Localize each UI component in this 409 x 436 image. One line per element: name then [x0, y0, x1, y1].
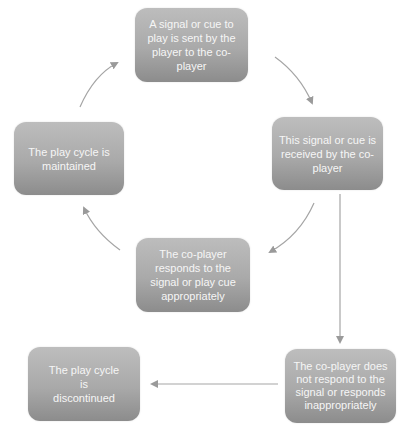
- node-label: The co-player responds to the signal or …: [142, 247, 244, 303]
- node-cycle-discontinued: The play cycle is discontinued: [28, 347, 140, 421]
- arrow-maintained-to-signal-sent: [80, 63, 117, 107]
- node-does-not-respond: The co-player does not respond to the si…: [285, 349, 396, 423]
- node-label: The co-player does not respond to the si…: [291, 360, 390, 412]
- node-label: A signal or cue to play is sent by the p…: [141, 17, 242, 73]
- node-label: The play cycle is maintained: [28, 145, 110, 173]
- node-signal-sent: A signal or cue to play is sent by the p…: [135, 8, 248, 82]
- arrow-signal-sent-to-received: [275, 57, 312, 103]
- node-responds-appropriately: The co-player responds to the signal or …: [136, 238, 250, 312]
- node-label: The play cycle is discontinued: [48, 363, 120, 405]
- node-label: This signal or cue is received by the co…: [278, 133, 377, 175]
- arrow-responds-to-maintained: [84, 208, 120, 250]
- node-cycle-maintained: The play cycle is maintained: [14, 122, 124, 195]
- node-signal-received: This signal or cue is received by the co…: [272, 117, 383, 190]
- arrow-received-to-responds: [270, 203, 314, 252]
